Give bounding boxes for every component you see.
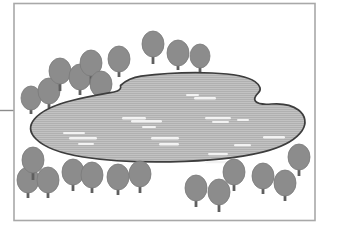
tree-crown: [108, 46, 130, 72]
tree-crown: [142, 31, 164, 57]
ripple-mark: [208, 153, 228, 155]
ripple-mark: [142, 126, 156, 128]
tree-crown: [49, 58, 71, 84]
ripple-mark: [263, 136, 285, 138]
ripple-mark: [237, 119, 249, 121]
ripple-mark: [234, 144, 251, 146]
tree-crown: [185, 175, 207, 201]
ripple-mark: [205, 117, 231, 119]
ripple-mark: [122, 117, 146, 119]
tree-crown: [107, 164, 129, 190]
ripple-mark: [159, 143, 179, 145]
ripple-mark: [151, 137, 179, 139]
tree-crown: [81, 162, 103, 188]
figure-root: [0, 0, 339, 238]
tree-crown: [288, 144, 310, 170]
ripple-mark: [131, 120, 162, 123]
tree-crown: [22, 147, 44, 173]
ripple-mark: [186, 94, 199, 96]
tree-crown: [37, 167, 59, 193]
tree-crown: [62, 159, 84, 185]
ripple-mark: [194, 97, 216, 100]
tree-crown: [274, 170, 296, 196]
tree-crown: [190, 44, 210, 68]
ripple-mark: [63, 132, 85, 134]
ripple-mark: [205, 161, 228, 163]
tree-crown: [129, 161, 151, 187]
ripple-mark: [69, 137, 97, 140]
lake-diagram: [0, 0, 339, 238]
tree-crown: [208, 179, 230, 205]
tree-crown: [252, 163, 274, 189]
ripple-mark: [78, 143, 94, 145]
tree-crown: [167, 40, 189, 66]
ripple-mark: [212, 121, 229, 123]
tree-crown: [223, 159, 245, 185]
